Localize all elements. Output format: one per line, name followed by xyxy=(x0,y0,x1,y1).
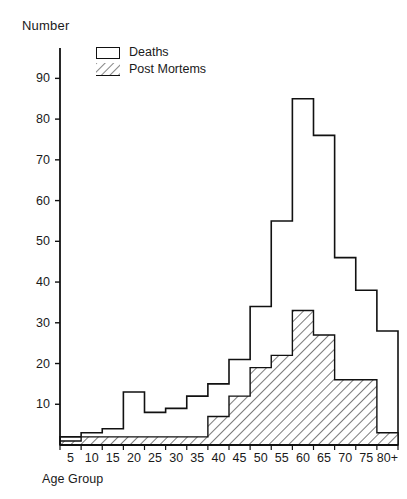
histogram-chart: Number 102030405060708090 51015202530354… xyxy=(0,0,407,499)
y-axis-tick-label: 40 xyxy=(24,275,50,289)
legend-item-post-mortems: Post Mortems xyxy=(96,61,206,78)
x-axis-tick-label: 20 xyxy=(127,451,141,465)
x-axis-tick-label: 5 xyxy=(67,451,74,465)
legend-label-deaths: Deaths xyxy=(129,44,169,61)
y-axis-tick-label: 60 xyxy=(24,194,50,208)
x-axis-tick-label: 65 xyxy=(317,451,331,465)
y-axis-tick-label: 90 xyxy=(24,71,50,85)
y-axis-tick-label: 80 xyxy=(24,112,50,126)
x-axis-tick-label: 70 xyxy=(338,451,352,465)
x-axis-tick-label: 25 xyxy=(148,451,162,465)
x-axis-tick-label: 30 xyxy=(169,451,183,465)
y-axis-tick-label: 70 xyxy=(24,153,50,167)
y-axis-tick-label: 30 xyxy=(24,316,50,330)
y-axis-tick-label: 50 xyxy=(24,234,50,248)
x-axis-title: Age Group xyxy=(42,472,103,486)
x-axis-tick-label: 80+ xyxy=(377,451,398,465)
chart-legend: Deaths Post Mortems xyxy=(96,44,206,78)
legend-label-post-mortems: Post Mortems xyxy=(129,61,206,78)
y-axis-tick-label: 20 xyxy=(24,357,50,371)
x-axis-tick-label: 60 xyxy=(296,451,310,465)
x-axis-tick-label: 55 xyxy=(275,451,289,465)
y-axis-tick-label: 10 xyxy=(24,397,50,411)
x-axis-tick-label: 45 xyxy=(233,451,247,465)
x-axis-tick-label: 40 xyxy=(211,451,225,465)
x-axis-tick-label: 10 xyxy=(85,451,99,465)
x-axis-tick-label: 35 xyxy=(190,451,204,465)
y-axis-title: Number xyxy=(22,18,69,33)
x-axis-tick-label: 75 xyxy=(359,451,373,465)
legend-swatch-post-mortems-icon xyxy=(96,64,120,76)
x-axis-tick-label: 15 xyxy=(106,451,120,465)
legend-item-deaths: Deaths xyxy=(96,44,206,61)
x-axis-tick-label: 50 xyxy=(254,451,268,465)
legend-swatch-deaths-icon xyxy=(96,47,120,59)
